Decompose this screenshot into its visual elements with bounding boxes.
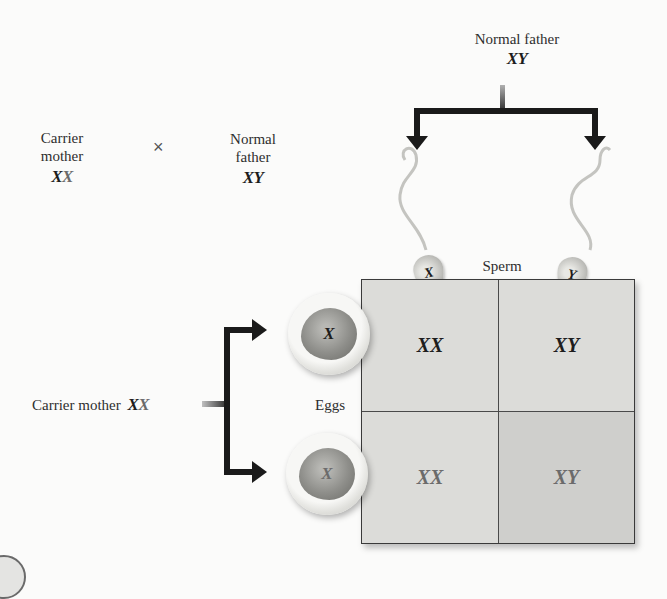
punnett-cell-r2c2: XY: [498, 411, 634, 543]
mother-source-text: Carrier mother: [32, 397, 121, 413]
allele-normal-x: X: [127, 395, 138, 414]
father-branch-arrow-icon: [406, 85, 606, 150]
egg-top-nucleus: X: [301, 308, 357, 360]
cell-genotype: XX: [417, 466, 444, 489]
punnett-square: XX XY XX XY: [361, 279, 635, 544]
egg-top: X: [288, 293, 370, 375]
sperm-y-tail: [571, 148, 610, 250]
sperm-x-tail: [400, 148, 426, 250]
cell-genotype: XX: [417, 334, 444, 357]
punnett-cell-r2c1: XX: [362, 411, 498, 543]
egg-bottom-nucleus: X: [299, 448, 355, 500]
cell-genotype: XY: [554, 466, 580, 489]
sperm-label: Sperm: [472, 257, 532, 275]
cell-genotype: XY: [554, 334, 580, 357]
mother-source-label: Carrier mother XX: [32, 396, 202, 414]
allele-carrier-x: X: [138, 395, 149, 414]
egg-bottom: X: [286, 433, 368, 515]
mother-branch-arrow-icon: [202, 319, 267, 483]
punnett-cell-r1c2: XY: [498, 280, 634, 411]
mother-source-genotype: XX: [127, 395, 149, 414]
punnett-cell-r1c1: XX: [362, 280, 498, 411]
eggs-label: Eggs: [305, 396, 355, 414]
